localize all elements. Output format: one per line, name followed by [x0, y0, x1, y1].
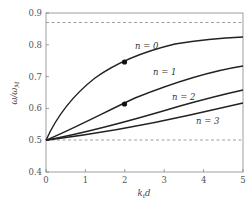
y-tick-label: 0.8 — [28, 40, 42, 50]
x-tick-label: 4 — [201, 175, 206, 185]
curve-n1 — [46, 66, 243, 140]
y-tick-label: 0.4 — [28, 167, 42, 177]
x-tick-label: 0 — [43, 175, 48, 185]
label-n1: n = 1 — [153, 67, 176, 77]
x-tick-label: 5 — [240, 175, 245, 185]
x-tick-labels: 0 1 2 3 4 5 — [43, 175, 245, 185]
y-axis-label: ω/ωM — [9, 81, 20, 105]
y-axis — [46, 13, 49, 172]
marker-n0 — [122, 59, 127, 64]
label-n3: n = 3 — [196, 116, 219, 126]
y-tick-labels: 0.9 0.8 0.7 0.6 0.5 0.4 — [28, 8, 42, 177]
plot-frame — [46, 13, 243, 172]
x-axis — [46, 169, 243, 172]
y-tick-label: 0.6 — [28, 103, 42, 113]
x-tick-label: 2 — [122, 175, 127, 185]
label-n0: n = 0 — [135, 41, 159, 51]
x-axis-label: ktd — [137, 188, 151, 199]
label-n2: n = 2 — [172, 92, 195, 102]
y-tick-label: 0.7 — [28, 72, 42, 82]
x-tick-label: 1 — [83, 175, 88, 185]
chart: 0.9 0.8 0.7 0.6 0.5 0.4 0 1 2 3 4 5 ktd … — [0, 0, 252, 201]
marker-n1 — [122, 101, 127, 106]
y-tick-label: 0.5 — [28, 135, 42, 145]
y-tick-label: 0.9 — [28, 8, 42, 18]
x-tick-label: 3 — [161, 175, 166, 185]
